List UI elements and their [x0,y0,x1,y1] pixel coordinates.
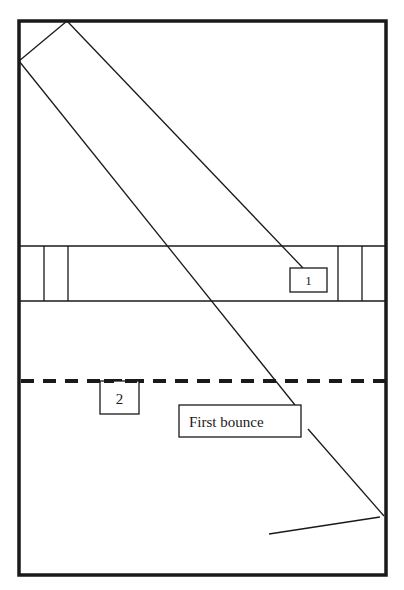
path-to-first-bounce [19,61,295,405]
trajectory [19,21,384,534]
label-box-2: 2 [100,381,139,414]
court-frame [19,21,386,575]
rebound-segment [269,517,380,534]
label-box-2-text: 2 [116,391,124,407]
first-bounce-text: First bounce [189,414,264,430]
first-bounce-label: First bounce [179,405,301,437]
label-box-1: 1 [290,268,327,292]
path-to-box1 [67,21,303,268]
corner-segment [19,21,67,61]
label-box-1-text: 1 [305,273,312,288]
court-diagram: 1 2 First bounce [0,0,404,590]
middle-band [19,246,386,301]
after-bounce-segment [308,429,384,516]
